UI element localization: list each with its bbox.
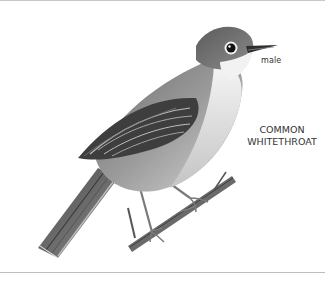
tail [38,168,118,258]
eye [227,44,236,53]
species-label: COMMON WHITETHROAT [237,124,325,148]
species-label-line1: COMMON [237,124,325,136]
sex-label: male [261,56,281,65]
bottom-divider [0,272,325,273]
beak [246,45,278,53]
species-label-line2: WHITETHROAT [237,136,325,148]
